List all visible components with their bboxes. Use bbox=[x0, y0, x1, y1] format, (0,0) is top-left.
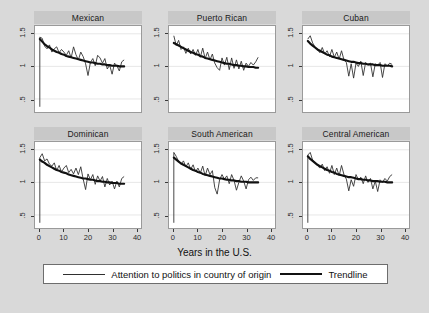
x-tick-label: 10 bbox=[188, 233, 206, 242]
plot-area bbox=[168, 141, 276, 229]
y-tick-mark bbox=[299, 33, 302, 34]
x-tick-label: 30 bbox=[104, 233, 122, 242]
x-tick-label: 20 bbox=[79, 233, 97, 242]
x-tick-label: 0 bbox=[164, 233, 182, 242]
legend-thin-line-icon bbox=[63, 274, 105, 275]
plot-canvas bbox=[303, 142, 409, 228]
plot-canvas bbox=[35, 142, 141, 228]
panel-title: Cuban bbox=[343, 13, 369, 23]
x-tick-label: 40 bbox=[128, 233, 146, 242]
legend-label-trendline: Trendline bbox=[328, 269, 367, 280]
y-tick-label: 1.5 bbox=[18, 25, 27, 41]
x-tick-mark bbox=[63, 229, 64, 232]
plot-area bbox=[168, 25, 276, 113]
plot-area bbox=[34, 141, 142, 229]
y-tick-label: .5 bbox=[152, 91, 161, 107]
panel-title: Mexican bbox=[72, 13, 104, 23]
y-tick-mark bbox=[31, 33, 34, 34]
series-line-trendline bbox=[308, 156, 392, 182]
series-line-attention bbox=[174, 152, 258, 194]
y-tick-mark bbox=[165, 216, 168, 217]
x-tick-mark bbox=[222, 229, 223, 232]
y-tick-label: 1 bbox=[18, 174, 27, 190]
plot-canvas bbox=[169, 142, 275, 228]
x-tick-label: 30 bbox=[372, 233, 390, 242]
panel-title-strip: Mexican bbox=[34, 11, 142, 24]
series-line-attention bbox=[40, 154, 124, 190]
plot-area bbox=[302, 25, 410, 113]
y-tick-label: 1 bbox=[286, 58, 295, 74]
panel-title: Puerto Rican bbox=[197, 13, 247, 23]
y-tick-label: 1 bbox=[152, 174, 161, 190]
x-tick-mark bbox=[173, 229, 174, 232]
x-tick-mark bbox=[405, 229, 406, 232]
y-tick-mark bbox=[299, 100, 302, 101]
facet-panel: Dominican1.51.5010203040 bbox=[14, 127, 148, 243]
x-tick-mark bbox=[113, 229, 114, 232]
y-tick-mark bbox=[31, 66, 34, 67]
x-tick-label: 10 bbox=[322, 233, 340, 242]
x-tick-mark bbox=[137, 229, 138, 232]
plot-canvas bbox=[303, 26, 409, 112]
x-tick-mark bbox=[307, 229, 308, 232]
y-tick-label: .5 bbox=[18, 91, 27, 107]
x-tick-mark bbox=[331, 229, 332, 232]
panel-title-strip: South American bbox=[168, 127, 276, 140]
y-tick-mark bbox=[31, 216, 34, 217]
x-tick-mark bbox=[356, 229, 357, 232]
panel-title: South American bbox=[191, 129, 252, 139]
facet-panel: South American1.51.5010203040 bbox=[148, 127, 282, 243]
facet-panel: Puerto Rican1.51.5 bbox=[148, 11, 282, 127]
y-tick-mark bbox=[299, 149, 302, 150]
x-tick-label: 0 bbox=[298, 233, 316, 242]
panel-grid: Mexican1.51.5Puerto Rican1.51.5Cuban1.51… bbox=[14, 11, 418, 243]
plot-area bbox=[302, 141, 410, 229]
y-tick-label: .5 bbox=[18, 207, 27, 223]
y-tick-label: 1 bbox=[286, 174, 295, 190]
panel-title: Dominican bbox=[67, 129, 108, 139]
plot-area bbox=[34, 25, 142, 113]
y-tick-mark bbox=[299, 66, 302, 67]
y-tick-label: 1.5 bbox=[286, 141, 295, 157]
y-tick-mark bbox=[31, 182, 34, 183]
series-line-attention bbox=[174, 36, 258, 71]
y-tick-mark bbox=[165, 149, 168, 150]
x-tick-mark bbox=[39, 229, 40, 232]
panel-title-strip: Dominican bbox=[34, 127, 142, 140]
legend-label-series: Attention to politics in country of orig… bbox=[111, 269, 271, 280]
y-tick-label: .5 bbox=[286, 207, 295, 223]
legend-thick-line-icon bbox=[280, 273, 322, 275]
panel-title-strip: Central American bbox=[302, 127, 410, 140]
y-tick-mark bbox=[165, 66, 168, 67]
y-tick-label: 1.5 bbox=[18, 141, 27, 157]
x-tick-label: 40 bbox=[396, 233, 414, 242]
y-tick-mark bbox=[165, 182, 168, 183]
x-tick-label: 10 bbox=[54, 233, 72, 242]
panel-title: Central American bbox=[323, 129, 390, 139]
series-line-attention bbox=[308, 152, 392, 191]
y-tick-label: 1 bbox=[18, 58, 27, 74]
facet-panel: Mexican1.51.5 bbox=[14, 11, 148, 127]
series-line-trendline bbox=[174, 158, 258, 183]
facet-panel: Central American1.51.5010203040 bbox=[282, 127, 416, 243]
y-tick-label: 1.5 bbox=[152, 25, 161, 41]
x-tick-label: 30 bbox=[238, 233, 256, 242]
x-tick-mark bbox=[271, 229, 272, 232]
series-line-attention bbox=[40, 37, 124, 75]
x-tick-label: 0 bbox=[30, 233, 48, 242]
legend-item-series: Attention to politics in country of orig… bbox=[63, 269, 271, 280]
x-tick-mark bbox=[197, 229, 198, 232]
x-tick-mark bbox=[247, 229, 248, 232]
y-tick-label: 1.5 bbox=[152, 141, 161, 157]
panel-title-strip: Puerto Rican bbox=[168, 11, 276, 24]
x-tick-label: 40 bbox=[262, 233, 280, 242]
legend-item-trendline: Trendline bbox=[280, 269, 367, 280]
plot-canvas bbox=[35, 26, 141, 112]
y-tick-mark bbox=[31, 100, 34, 101]
y-tick-mark bbox=[165, 33, 168, 34]
y-tick-mark bbox=[165, 100, 168, 101]
x-axis-title: Years in the U.S. bbox=[0, 247, 429, 258]
y-tick-mark bbox=[299, 216, 302, 217]
series-line-attention bbox=[308, 36, 392, 78]
y-tick-label: 1 bbox=[152, 58, 161, 74]
